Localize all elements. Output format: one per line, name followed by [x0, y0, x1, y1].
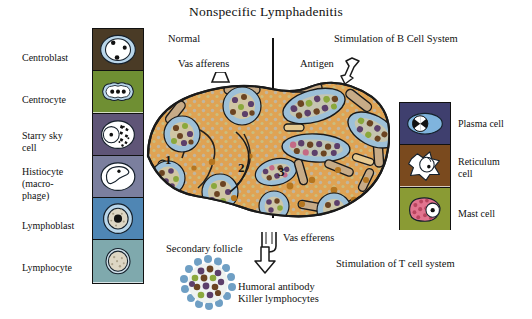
caption-antigen: Antigen [300, 58, 334, 70]
caption-humoral-antibody-output: Humoral antibody Killer lymphocytes [238, 281, 319, 306]
legend-cell-centrocyte [93, 71, 143, 113]
left-label-centrocyte: Centrocyte [22, 94, 66, 106]
left-label-lymphocyte: Lymphocyte [22, 262, 72, 274]
secondary-follicle-detail [180, 255, 236, 311]
caption-b-cell-stimulation: Stimulation of B Cell System [334, 33, 458, 45]
caption-normal: Normal [168, 33, 200, 45]
right-label-reticulum-cell: Reticulum cell [458, 156, 500, 180]
caption-vas-afferens: Vas afferens [178, 58, 229, 70]
lymphocyte-cell-icon [93, 240, 143, 282]
mast-cell-icon [400, 188, 450, 230]
legend-cell-starry-sky [93, 114, 143, 156]
legend-cell-centroblast [93, 29, 143, 71]
left-label-starry-sky-cell: Starry sky cell [22, 130, 63, 154]
lymph-node-diagram: 1 2 3 [138, 72, 390, 240]
left-label-lymphoblast: Lymphoblast [22, 220, 74, 232]
right-cell-legend-column [399, 102, 451, 230]
node-region-number-3: 3 [278, 164, 285, 179]
caption-t-cell-stimulation: Stimulation of T cell system [336, 258, 455, 270]
centrocyte-cell-icon [93, 71, 143, 112]
right-label-mast-cell: Mast cell [458, 208, 495, 220]
node-region-number-2: 2 [238, 160, 245, 175]
centroblast-cell-icon [93, 29, 143, 70]
legend-cell-histiocyte [93, 156, 143, 198]
legend-cell-lymphoblast [93, 198, 143, 240]
output-arrow-icon [252, 245, 278, 275]
vas-afferens-vessel [212, 72, 229, 82]
histiocyte-cell-icon [93, 156, 143, 197]
starry-sky-cell-icon [93, 114, 143, 155]
legend-cell-plasma [400, 103, 450, 145]
reticulum-cell-icon [400, 145, 450, 186]
caption-secondary-follicle: Secondary follicle [166, 243, 243, 255]
figure-canvas: Nonspecific Lymphadenitis Normal Stimula… [0, 0, 532, 319]
right-label-plasma-cell: Plasma cell [458, 118, 504, 130]
figure-title: Nonspecific Lymphadenitis [0, 4, 532, 20]
node-region-number-1: 1 [165, 152, 172, 167]
legend-cell-lymphocyte [93, 240, 143, 282]
left-cell-legend-column [92, 28, 144, 284]
left-label-centroblast: Centroblast [22, 52, 68, 64]
plasma-cell-icon [400, 103, 450, 144]
legend-cell-reticulum [400, 145, 450, 187]
antigen-arrow-icon [336, 56, 362, 86]
legend-cell-mast [400, 188, 450, 230]
left-label-histiocyte: Histiocyte (macro- phage) [22, 166, 63, 201]
lymphoblast-cell-icon [93, 198, 143, 239]
